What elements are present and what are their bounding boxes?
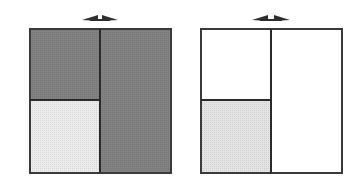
left-diagram xyxy=(0,0,178,184)
region-right xyxy=(100,29,171,173)
left-diagram-panel xyxy=(0,0,178,184)
region-bottom-left xyxy=(201,100,271,173)
double-arrow-icon xyxy=(82,15,118,21)
region-bottom-left xyxy=(30,100,100,173)
region-top-left xyxy=(201,29,271,100)
right-diagram-panel xyxy=(178,0,356,184)
region-top-left xyxy=(30,29,100,100)
double-arrow-icon xyxy=(252,15,290,21)
right-diagram xyxy=(178,0,356,184)
region-right xyxy=(271,29,342,173)
